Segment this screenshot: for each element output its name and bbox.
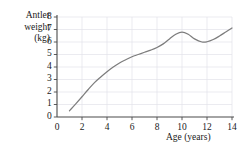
x-tick-label: 14 [224,122,240,132]
axis-lines [57,15,234,117]
x-tick-label: 6 [124,122,140,132]
x-tick-label: 4 [99,122,115,132]
x-axis-title: Age (years) [166,132,211,144]
y-tick-label: 3 [40,73,52,83]
y-tick-label: 6 [40,36,52,46]
data-curve [70,28,233,111]
x-tick-label: 2 [74,122,90,132]
y-tick-label: 5 [40,48,52,58]
y-tick-label: 4 [40,61,52,71]
antler-weight-chart: Antler weight (kg) Age (years) 012345678… [0,0,247,150]
x-tick-label: 10 [174,122,190,132]
y-tick-label: 8 [40,11,52,21]
x-tick-label: 12 [199,122,215,132]
y-tick-label: 1 [40,98,52,108]
grid-lines [57,17,232,117]
y-tick-label: 0 [40,111,52,121]
y-tick-label: 2 [40,86,52,96]
series-line-0 [70,28,233,111]
x-tick-label: 8 [149,122,165,132]
x-tick-label: 0 [49,122,65,132]
y-tick-label: 7 [40,23,52,33]
